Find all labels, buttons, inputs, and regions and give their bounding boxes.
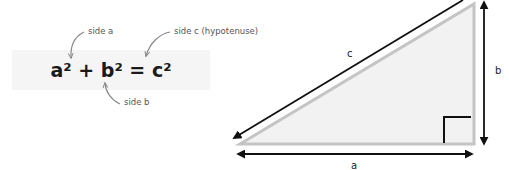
label-side-c: c	[347, 48, 353, 59]
annotation-arrow-side-a	[71, 32, 84, 58]
label-side-a: a	[351, 160, 357, 170]
right-triangle	[240, 4, 474, 144]
annotation-arrow-side-b	[105, 83, 120, 104]
label-side-b: b	[495, 65, 501, 76]
annotation-arrow-side-c	[146, 32, 170, 56]
diagram-graphics	[0, 0, 509, 170]
pythagorean-diagram: a² + b² = c² side a side c (hypotenuse) …	[0, 0, 509, 170]
